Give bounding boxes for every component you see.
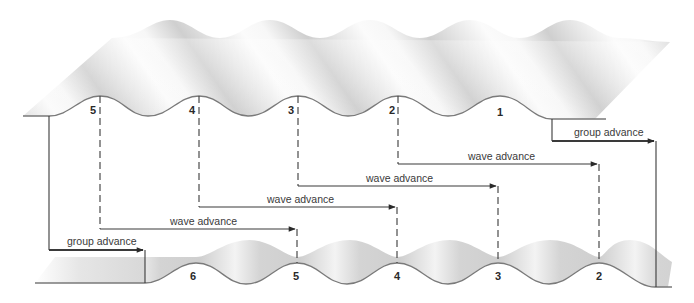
wave-advance-diagram: 5 4 3 2 1 6 5 4 3 2 group advance group … — [0, 0, 694, 303]
lower-crest-label-4: 4 — [394, 270, 401, 282]
upper-crest-label-1: 1 — [497, 106, 503, 118]
upper-crest-label-4: 4 — [189, 104, 196, 116]
lower-crest-label-3: 3 — [495, 270, 501, 282]
wave-advance-label-3: wave advance — [365, 172, 433, 184]
wave-advance-label-2: wave advance — [266, 193, 334, 205]
wave-advance-label-4: wave advance — [467, 150, 535, 162]
upper-wave-surface — [23, 20, 670, 119]
upper-crest-label-5: 5 — [90, 104, 96, 116]
group-advance-bottom-label: group advance — [67, 235, 137, 247]
lower-crest-label-2: 2 — [596, 270, 602, 282]
wave-advance-label-1: wave advance — [169, 215, 237, 227]
lower-wave-surface — [35, 240, 672, 287]
upper-crest-label-2: 2 — [389, 104, 395, 116]
group-advance-top-label: group advance — [574, 126, 644, 138]
upper-crest-label-3: 3 — [288, 104, 294, 116]
lower-crest-label-6: 6 — [190, 270, 196, 282]
lower-crest-label-5: 5 — [293, 270, 299, 282]
